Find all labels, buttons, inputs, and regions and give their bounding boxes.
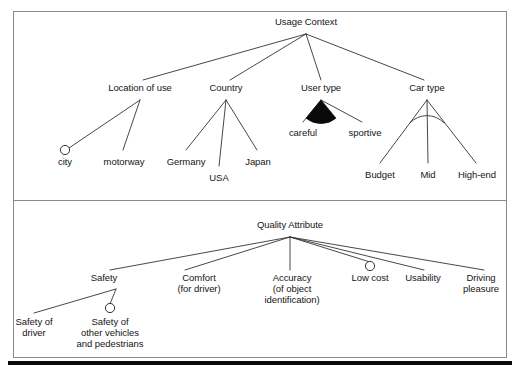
node-city: city <box>58 156 72 167</box>
node-safety-of-others: Safety of other vehicles and pedestrians <box>77 316 144 349</box>
feature-model-diagram: Usage Context Location of use Country Us… <box>0 0 520 377</box>
edge-group-usage-context <box>69 34 476 166</box>
edge-quality-attribute-low-cost <box>290 237 370 262</box>
node-comfort: Comfort (for driver) <box>177 272 220 294</box>
low-cost-optional-circle-icon <box>365 261 374 270</box>
node-high-end: High-end <box>458 169 496 180</box>
node-budget: Budget <box>365 169 395 180</box>
node-sportive: sportive <box>349 127 382 138</box>
edge-quality-attribute-driving-pleasure <box>290 237 484 270</box>
user-type-alternative-group-arc <box>306 100 336 124</box>
safety-of-others-optional-circle-icon <box>105 303 114 312</box>
node-accuracy: Accuracy (of object identification) <box>264 272 319 305</box>
node-japan: Japan <box>245 156 271 167</box>
edge-quality-attribute-usability <box>290 237 424 270</box>
node-safety: Safety <box>91 272 118 283</box>
edge-car-type-mid <box>427 100 428 163</box>
edge-usage-context-country <box>230 34 306 80</box>
city-optional-circle-icon <box>60 145 69 154</box>
edge-safety-safety-of-others <box>110 289 116 304</box>
node-driving-pleasure: Driving pleasure <box>463 272 499 294</box>
node-car-type: Car type <box>409 82 445 93</box>
edge-usage-context-car-type <box>306 34 424 80</box>
node-country: Country <box>210 82 243 93</box>
node-low-cost: Low cost <box>351 272 388 283</box>
edge-location-of-use-motorway <box>123 100 140 150</box>
edge-usage-context-location-of-use <box>143 34 306 80</box>
node-usability: Usability <box>405 272 440 283</box>
node-usage-context: Usage Context <box>275 16 337 27</box>
node-careful: careful <box>289 127 317 138</box>
node-location-of-use: Location of use <box>108 82 172 93</box>
node-safety-of-driver: Safety of driver <box>15 316 52 338</box>
node-germany: Germany <box>167 156 206 167</box>
node-user-type: User type <box>301 82 341 93</box>
edge-usage-context-user-type <box>306 34 321 80</box>
outer-frame <box>14 12 507 358</box>
node-quality-attribute: Quality Attribute <box>257 219 323 230</box>
node-usa: USA <box>209 172 228 183</box>
edge-country-japan <box>226 100 257 150</box>
edge-country-germany <box>186 100 226 150</box>
edge-location-of-use-city <box>69 100 140 148</box>
bottom-rule <box>8 361 512 365</box>
edge-country-usa <box>219 100 226 166</box>
node-mid: Mid <box>420 169 435 180</box>
edge-car-type-high-end <box>427 100 476 163</box>
edge-safety-safety-of-driver <box>34 289 116 313</box>
node-motorway: motorway <box>104 156 145 167</box>
edge-car-type-budget <box>380 100 427 163</box>
